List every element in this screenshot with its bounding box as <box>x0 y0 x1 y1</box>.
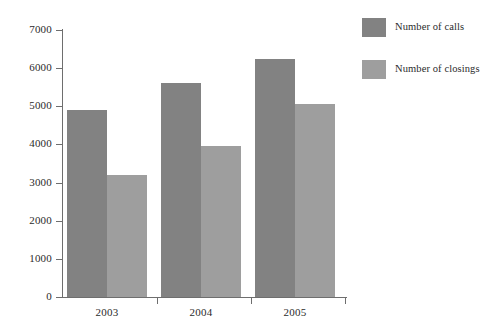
y-axis-tick-label-text: 5000 <box>4 100 52 111</box>
y-axis-tick <box>56 297 63 298</box>
legend: Number of callsNumber of closings <box>362 16 487 100</box>
legend-label: Number of closings <box>395 63 480 74</box>
legend-swatch-icon <box>362 60 386 79</box>
legend-label: Number of calls <box>395 21 464 32</box>
x-axis-tick <box>345 298 346 304</box>
y-axis-tick <box>56 106 63 107</box>
legend-swatch-icon <box>362 18 386 37</box>
y-axis-tick-label-text: 6000 <box>4 62 52 73</box>
y-axis-tick-label-text: 2000 <box>4 215 52 226</box>
bar-2003-closings <box>107 175 147 297</box>
y-axis-tick <box>56 183 63 184</box>
y-axis-tick-label: 5000 <box>0 100 52 111</box>
y-axis-tick-label-text: 4000 <box>4 138 52 149</box>
bar-2005-calls <box>255 59 295 297</box>
bar-2004-closings <box>201 146 241 297</box>
y-axis-tick-label-text: 7000 <box>4 24 52 35</box>
bar-2005-closings <box>295 104 335 297</box>
bar-2003-calls <box>67 110 107 297</box>
y-axis-tick-label: 2000 <box>0 215 52 226</box>
x-axis-label-2004: 2004 <box>161 306 241 319</box>
x-axis-tick <box>251 298 252 304</box>
x-axis-label-2003: 2003 <box>67 306 147 319</box>
y-axis-tick-label: 1000 <box>0 253 52 264</box>
bar-2004-calls <box>161 83 201 297</box>
x-axis-tick <box>157 298 158 304</box>
y-axis-line <box>62 29 63 298</box>
y-axis-tick-label: 6000 <box>0 62 52 73</box>
x-axis-line <box>62 297 347 298</box>
y-axis-tick-label: 4000 <box>0 138 52 149</box>
bar-chart: 01000200030004000500060007000 2003200420… <box>0 0 487 331</box>
y-axis-tick <box>56 259 63 260</box>
y-axis-tick-label-text: 0 <box>4 291 52 302</box>
y-axis-tick <box>56 221 63 222</box>
legend-item-calls: Number of calls <box>362 16 487 44</box>
y-axis-tick-label: 7000 <box>0 24 52 35</box>
y-axis-tick-label-text: 3000 <box>4 177 52 188</box>
y-axis-tick-label: 3000 <box>0 177 52 188</box>
x-axis-label-2005: 2005 <box>255 306 335 319</box>
y-axis-tick <box>56 68 63 69</box>
legend-item-closings: Number of closings <box>362 58 487 86</box>
y-axis-tick-label-text: 1000 <box>4 253 52 264</box>
y-axis-tick <box>56 30 63 31</box>
y-axis-tick-label: 0 <box>0 291 52 302</box>
y-axis-tick <box>56 144 63 145</box>
